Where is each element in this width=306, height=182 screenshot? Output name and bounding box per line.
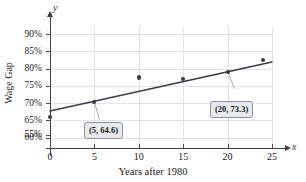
x-axis-variable-label: x [292,141,296,152]
x-tick-label-0: 0 [38,152,62,162]
x-tick-15 [183,144,184,149]
y-tick-label-85: 85% [16,47,42,57]
wage-gap-scatter-figure: y x 90% 85% 80% 75% 70% 65% 60% 0 5 10 1… [0,0,306,182]
x-axis-title: Years after 1980 [0,166,306,177]
x-tick-label-20: 20 [216,152,240,162]
y-tick-75 [46,86,51,87]
gridline-75 [50,86,272,87]
y-tick-label-55: 55% [16,130,42,140]
y-tick-label-75: 75% [16,81,42,91]
x-tick-20 [228,144,229,149]
y-tick-60 [46,138,51,139]
data-point [226,70,230,74]
x-tick-label-5: 5 [82,152,106,162]
y-tick-55 [46,135,51,136]
y-tick-label-80: 80% [16,64,42,74]
y-tick-label-70: 70% [16,99,42,109]
callout-label-5-64-6: (5, 64.6) [84,122,123,139]
x-axis-line [46,148,287,149]
x-tick-5 [94,144,95,149]
gridline-x20 [228,27,229,148]
gridline-60 [50,138,272,139]
y-axis-variable-label: y [53,2,57,13]
y-tick-85 [46,51,51,52]
gridline-65 [50,120,272,121]
y-tick-70 [46,103,51,104]
figure-top-caption [14,0,214,4]
gridline-x10 [139,27,140,148]
gridline-x25 [272,27,273,148]
gridline-85 [50,51,272,52]
x-tick-label-25: 25 [260,152,284,162]
y-tick-65 [46,120,51,121]
x-axis-arrow-icon [285,145,291,151]
y-tick-80 [46,69,51,70]
gridline-x15 [183,27,184,148]
y-axis-arrow-icon [47,11,53,17]
callout-label-20-73-3: (20, 73.3) [210,101,253,118]
y-axis-title: Wage Gap [4,48,14,118]
y-tick-label-65: 65% [16,116,42,126]
x-tick-label-10: 10 [127,152,151,162]
data-point [137,75,141,79]
y-tick-90 [46,34,51,35]
gridline-80 [50,69,272,70]
x-tick-0 [50,144,51,149]
gridline-90 [50,34,272,35]
y-tick-label-90: 90% [16,30,42,40]
x-tick-10 [139,144,140,149]
x-tick-label-15: 15 [171,152,195,162]
x-tick-25 [272,144,273,149]
